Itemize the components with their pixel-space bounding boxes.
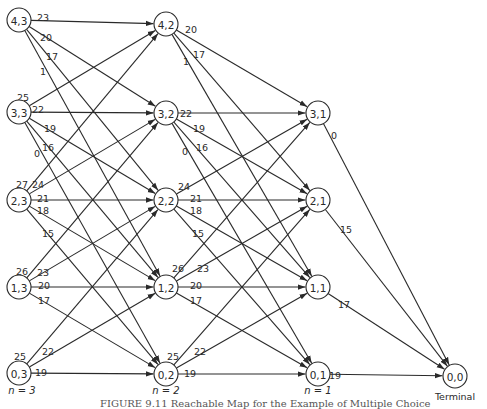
state-node-3-3: 3,3 [7, 100, 31, 124]
node-label: 1,2 [158, 282, 175, 294]
edge-cost-label: 24 [178, 181, 190, 192]
node-label: 0,1 [310, 369, 327, 381]
stage-labels-layer: n = 3n = 2n = 1 [8, 385, 331, 396]
edge-cost-label: 23 [37, 12, 49, 23]
edge-cost-label: 20 [40, 32, 52, 43]
edge-cost-label: 22 [194, 346, 206, 357]
edge-4-3-to-4-2 [31, 20, 154, 23]
state-node-3-1: 3,1 [306, 101, 330, 125]
edge-cost-label: 20 [185, 24, 197, 35]
state-node-4-2: 4,2 [154, 12, 178, 36]
edge-labels-layer: 2320171252219160272421181526232017252219… [14, 12, 352, 381]
edge-cost-label: 25 [167, 351, 179, 362]
state-node-2-2: 2,2 [154, 188, 178, 212]
node-label: 0,3 [11, 368, 28, 380]
edge-cost-label: 22 [42, 346, 54, 357]
edge-cost-label: 26 [172, 263, 184, 274]
edge-cost-label: 19 [329, 370, 341, 381]
edge-cost-label: 17 [338, 299, 350, 310]
edge-cost-label: 17 [190, 295, 202, 306]
node-label: 4,3 [11, 15, 28, 27]
node-label: 2,1 [310, 195, 327, 207]
edge-cost-label: 18 [37, 205, 49, 216]
edge-cost-label: 15 [192, 228, 204, 239]
stage-label: n = 1 [304, 385, 331, 396]
node-label: 2,2 [158, 195, 175, 207]
edge-cost-label: 19 [35, 367, 47, 378]
state-node-2-1: 2,1 [306, 188, 330, 212]
edge-cost-label: 21 [37, 193, 49, 204]
edge-3-1-to-0-0 [324, 124, 450, 365]
node-label: 0,2 [158, 369, 175, 381]
stage-label: n = 2 [152, 385, 179, 396]
edge-3-3-to-0-2 [25, 122, 160, 363]
node-label: 1,3 [11, 282, 28, 294]
state-node-0-3: 0,3 [7, 361, 31, 385]
state-node-0-1: 0,1 [306, 362, 330, 386]
edges-layer [25, 20, 449, 375]
node-label: 1,1 [310, 282, 327, 294]
edge-0-1-to-0-0 [330, 374, 443, 376]
state-node-3-2: 3,2 [154, 101, 178, 125]
edge-cost-label: 1 [40, 66, 46, 77]
state-node-0-2: 0,2 [154, 362, 178, 386]
edge-4-2-to-3-1 [176, 30, 307, 107]
node-label: 3,2 [158, 108, 175, 120]
node-label: 4,2 [158, 19, 175, 31]
edge-cost-label: 0 [331, 130, 337, 141]
terminal-label: Terminal [434, 391, 475, 402]
edge-4-2-to-1-1 [172, 34, 312, 276]
node-label: 0,0 [447, 371, 464, 383]
edge-cost-label: 23 [197, 263, 209, 274]
state-node-1-1: 1,1 [306, 275, 330, 299]
edge-cost-label: 18 [190, 205, 202, 216]
edge-cost-label: 17 [193, 49, 205, 60]
reachable-map-diagram: 2320171252219160272421181526232017252219… [0, 0, 487, 409]
figure-caption: FIGURE 9.11 Reachable Map for the Exampl… [100, 398, 430, 409]
edge-cost-label: 21 [190, 193, 202, 204]
state-node-4-3: 4,3 [7, 8, 31, 32]
edge-cost-label: 19 [44, 123, 56, 134]
edge-cost-label: 20 [38, 280, 50, 291]
edge-0-3-to-0-2 [31, 373, 154, 374]
state-node-0-0: 0,0 [443, 364, 467, 388]
edge-cost-label: 15 [340, 224, 352, 235]
edge-cost-label: 17 [46, 51, 58, 62]
state-node-2-3: 2,3 [7, 188, 31, 212]
edge-cost-label: 24 [32, 179, 44, 190]
edge-cost-label: 23 [37, 267, 49, 278]
node-label: 2,3 [11, 195, 28, 207]
state-node-1-3: 1,3 [7, 275, 31, 299]
edge-cost-label: 19 [193, 123, 205, 134]
edge-cost-label: 0 [182, 146, 188, 157]
edge-cost-label: 25 [14, 351, 26, 362]
edge-cost-label: 15 [42, 228, 54, 239]
edge-cost-label: 17 [38, 295, 50, 306]
edge-cost-label: 1 [183, 56, 189, 67]
edge-cost-label: 19 [184, 368, 196, 379]
node-label: 3,3 [11, 107, 28, 119]
edge-cost-label: 22 [180, 108, 192, 119]
edge-cost-label: 16 [42, 142, 54, 153]
edge-cost-label: 20 [190, 280, 202, 291]
stage-label: n = 3 [8, 385, 35, 396]
state-node-1-2: 1,2 [154, 275, 178, 299]
edge-cost-label: 22 [32, 104, 44, 115]
edge-cost-label: 0 [34, 148, 40, 159]
edge-cost-label: 16 [196, 142, 208, 153]
node-label: 3,1 [310, 108, 327, 120]
